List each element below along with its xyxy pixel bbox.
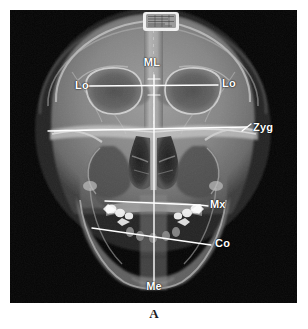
- landmark-label-lo-right: Lo: [222, 78, 236, 89]
- annotation-line-lo: [88, 85, 218, 86]
- landmark-label-co: Co: [215, 238, 230, 249]
- annotation-leader-mx: [200, 205, 208, 206]
- cephalometric-radiograph-image: ML Lo Lo Zyg Mx Co Me: [10, 10, 297, 303]
- figure-panel-a: ML Lo Lo Zyg Mx Co Me A: [0, 0, 308, 329]
- landmark-label-me: Me: [146, 281, 162, 292]
- landmark-label-mx: Mx: [210, 199, 226, 210]
- landmark-label-lo-left: Lo: [75, 80, 89, 91]
- landmark-label-ml: ML: [144, 57, 160, 68]
- figure-caption: A: [0, 306, 308, 322]
- landmark-label-zyg: Zyg: [253, 122, 273, 133]
